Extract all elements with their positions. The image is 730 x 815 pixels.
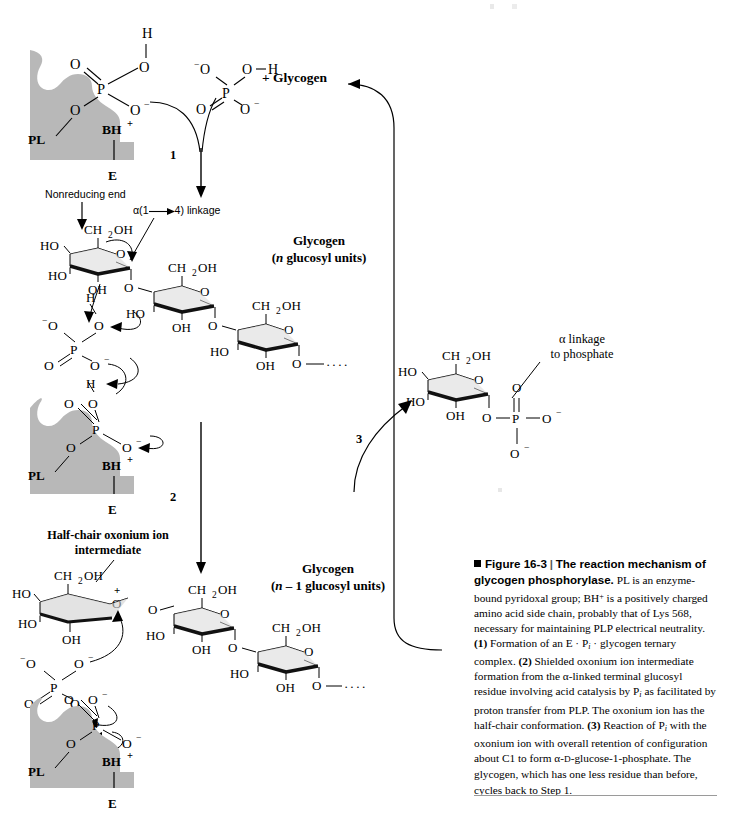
svg-text:E: E [108, 502, 117, 517]
svg-text:P: P [92, 422, 100, 437]
svg-text:2: 2 [78, 576, 83, 586]
svg-text:OH: OH [302, 620, 321, 635]
svg-text:OH: OH [446, 408, 465, 423]
svg-text:P: P [97, 81, 105, 97]
svg-text:OH: OH [276, 680, 295, 695]
step-3-number: 3 [356, 432, 362, 447]
svg-text:O: O [130, 102, 140, 118]
svg-text:−: − [194, 60, 199, 70]
svg-text:+: + [127, 454, 133, 465]
enzyme-surface-shape [30, 698, 134, 788]
svg-text:····: ···· [344, 679, 367, 694]
svg-text:CH: CH [442, 348, 460, 363]
svg-text:−: − [42, 316, 47, 326]
svg-text:OH: OH [472, 348, 491, 363]
svg-text:O: O [88, 692, 98, 707]
svg-text:OH: OH [282, 298, 301, 313]
svg-text:O: O [26, 656, 36, 671]
svg-text:O: O [512, 380, 521, 395]
svg-text:2: 2 [296, 628, 301, 638]
figure-caption: Figure 16-3 | The reaction mechanism of … [474, 556, 717, 798]
svg-text:OH: OH [192, 642, 211, 657]
svg-text:2: 2 [466, 356, 471, 366]
svg-text:PL: PL [28, 764, 45, 779]
svg-text:CH: CH [252, 298, 270, 313]
glycogen-nm1-structure: O CH 2 OH O HO OH O CH 2 OH O HO OH [150, 580, 450, 700]
svg-text:BH: BH [102, 754, 121, 769]
caption-run: Reaction of P [600, 719, 664, 731]
alpha-linkage-tail: 4) linkage [175, 204, 221, 216]
svg-text:−: − [136, 437, 141, 447]
svg-text:PL: PL [28, 468, 45, 483]
svg-text:O: O [148, 602, 157, 617]
svg-text:O: O [312, 678, 321, 693]
svg-text:CH: CH [54, 568, 72, 583]
svg-text:BH: BH [102, 122, 122, 137]
svg-text:O: O [94, 318, 104, 333]
svg-text:O: O [510, 446, 519, 461]
caption-run: (3) [587, 719, 600, 731]
svg-text:CH: CH [188, 582, 206, 597]
svg-text:O: O [122, 440, 132, 455]
glucosyl-ring-3: CH 2 OH O HO OH O ···· [210, 298, 349, 373]
alpha-linkage-line1: α linkage [527, 332, 637, 347]
svg-text:OH: OH [256, 358, 275, 373]
svg-text:H: H [142, 25, 153, 41]
svg-text:OH: OH [62, 632, 81, 647]
svg-text:E: E [108, 168, 117, 183]
svg-text:O: O [482, 410, 491, 425]
caption-run: (1) [474, 637, 487, 649]
svg-text:−: − [254, 99, 259, 109]
svg-text:····: ···· [326, 357, 349, 372]
svg-text:O: O [242, 62, 252, 77]
svg-text:CH: CH [168, 260, 186, 275]
nonreducing-end-label: Nonreducing end [45, 188, 126, 200]
svg-text:2: 2 [108, 230, 113, 240]
half-chair-line2: intermediate [18, 543, 198, 558]
scan-speck [512, 4, 517, 9]
svg-text:−: − [556, 408, 561, 418]
svg-text:HO: HO [48, 268, 67, 283]
svg-text:P: P [92, 718, 100, 733]
n-units-rest: glucosyl units) [283, 250, 366, 265]
alpha-1-4-linkage-label: α(14) linkage [133, 204, 220, 216]
svg-text:P: P [70, 342, 78, 357]
step-1-arrow [188, 148, 214, 198]
svg-text:O: O [66, 736, 76, 751]
svg-text:O: O [228, 640, 237, 655]
caption-run: Formation of an E · P [487, 637, 588, 649]
alpha-linkage-head: α(1 [133, 204, 149, 216]
enzyme-surface-shape [30, 398, 134, 494]
half-chair-line1: Half-chair oxonium ion [18, 528, 198, 543]
enzyme-surface-shape [30, 50, 134, 160]
svg-text:HO: HO [210, 344, 229, 359]
svg-text:O: O [124, 280, 133, 295]
svg-text:−: − [524, 443, 529, 453]
glycogen-n-label: Glycogen (n glucosyl units) [244, 232, 394, 266]
svg-text:+: + [114, 584, 120, 596]
svg-text:O: O [64, 692, 74, 707]
svg-text:O: O [48, 318, 58, 333]
figure-number: Figure 16-3 [485, 557, 547, 570]
glucosyl-ring-b: CH 2 OH O HO OH O ···· [230, 620, 367, 695]
figure-caption-body: PL is an enzyme-bound pyridoxal group; B… [474, 574, 716, 795]
svg-text:HO: HO [12, 586, 31, 601]
svg-text:H: H [86, 376, 95, 391]
svg-text:O: O [70, 56, 80, 72]
svg-text:O: O [88, 396, 98, 411]
svg-text:O: O [64, 396, 74, 411]
svg-text:HO: HO [146, 628, 165, 643]
enzyme-plp-bottom: O O − P O − O PL BH + E [22, 692, 212, 812]
svg-text:HO: HO [40, 238, 59, 253]
glucose-1-phosphate-structure: CH 2 OH O HO HO OH O P O O − O − [400, 346, 620, 466]
glucosyl-ring-a: CH 2 OH O HO OH O [146, 582, 256, 657]
svg-text:O: O [44, 358, 54, 373]
glycogen-word-2: Glycogen [248, 560, 408, 577]
svg-text:OH: OH [114, 222, 133, 237]
svg-text:+: + [127, 750, 133, 761]
svg-text:O: O [200, 62, 210, 77]
svg-text:CH: CH [272, 620, 290, 635]
svg-text:O: O [542, 411, 551, 426]
svg-text:HO: HO [230, 666, 249, 681]
svg-text:HO: HO [18, 616, 37, 631]
